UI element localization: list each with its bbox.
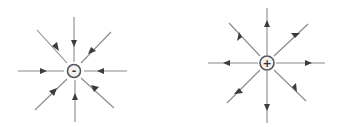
arrow-icon [264, 20, 270, 27]
electric-field-diagram: - + [0, 0, 340, 127]
positive-sign: + [262, 57, 271, 70]
arrow-icon [71, 40, 77, 47]
negative-sign: - [72, 64, 77, 77]
field-line-sw [35, 79, 67, 110]
field-line-ne [274, 24, 308, 56]
arrow-icon [305, 60, 312, 66]
negative-charge-field: - [18, 17, 127, 122]
field-line-sw [227, 70, 260, 103]
field-line-nw [37, 30, 67, 63]
arrow-icon [223, 60, 230, 66]
arrow-icon [72, 93, 78, 100]
arrow-icon [291, 33, 300, 38]
arrow-icon [264, 104, 270, 111]
arrow-icon [292, 83, 297, 92]
field-line-nw [229, 23, 260, 56]
field-line-ne [81, 32, 111, 63]
arrow-icon [97, 68, 104, 74]
arrow-icon [40, 68, 47, 74]
arrow-icon [237, 32, 242, 41]
positive-charge-field: + [208, 8, 325, 123]
field-line-se [274, 70, 306, 101]
field-line-se [81, 78, 114, 108]
